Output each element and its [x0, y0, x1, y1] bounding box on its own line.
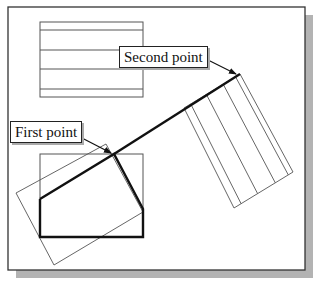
second-point-label: Second point	[119, 46, 208, 68]
first-point-label: First point	[10, 121, 82, 143]
second-point-text: Second point	[124, 49, 203, 65]
first-point-text: First point	[15, 124, 77, 140]
